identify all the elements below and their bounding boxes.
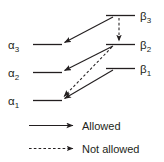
level-label-beta3: β3 [140, 10, 152, 25]
transition-beta1-to-alpha1 [65, 70, 114, 99]
level-label-alpha2: α2 [8, 67, 20, 82]
level-label-beta2: β2 [140, 39, 152, 54]
level-label-alpha3: α3 [8, 39, 20, 54]
transition-beta2-to-alpha1 [64, 47, 112, 97]
level-label-beta1: β1 [140, 63, 152, 78]
transition-beta2-to-alpha2 [65, 46, 114, 71]
legend-label-not-allowed: Not allowed [82, 143, 139, 155]
energy-level-diagram: β3 β2 β1 α3 α2 α1 Allowed Not allowed [0, 0, 164, 162]
legend-label-allowed: Allowed [82, 120, 121, 132]
level-label-alpha1: α1 [8, 95, 20, 110]
transition-beta3-to-alpha3 [65, 17, 114, 43]
energy-diagram-canvas: β3 β2 β1 α3 α2 α1 Allowed Not allowed [0, 0, 164, 162]
